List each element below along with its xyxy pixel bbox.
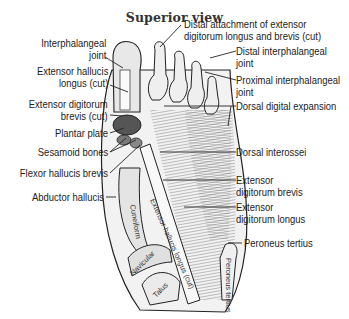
- hallux: [113, 42, 142, 148]
- label-extensor-digitorum-longus: Extensor digitorum longus: [236, 201, 305, 225]
- label-line: Extensor hallucis: [37, 65, 108, 77]
- label-extensor-hallucis-longus-cut: Extensor hallucis longus (cut): [37, 65, 108, 89]
- label-line: Extensor: [236, 201, 305, 213]
- label-line: Extensor: [236, 174, 303, 186]
- label-line: Sesamoid bones: [38, 146, 108, 158]
- label-line: brevis (cut): [29, 110, 108, 122]
- label-line: Distal interphalangeal: [236, 45, 327, 57]
- label-line: Proximal interphalangeal: [236, 74, 340, 86]
- label-distal-interphalangeal-joint: Distal interphalangeal joint: [236, 45, 327, 69]
- inline-label-peroneus-tertius: Peroneus tertius: [224, 258, 233, 313]
- label-peroneus-tertius: Peroneus tertius: [244, 237, 313, 249]
- label-flexor-hallucis-brevis: Flexor hallucis brevis: [20, 167, 108, 179]
- label-extensor-digitorum-brevis-cut: Extensor digitorum brevis (cut): [29, 98, 108, 122]
- label-abductor-hallucis: Abductor hallucis: [32, 191, 104, 203]
- label-proximal-interphalangeal-joint: Proximal interphalangeal joint: [236, 74, 340, 98]
- label-line: digitorum longus and brevis (cut): [184, 30, 321, 42]
- label-dorsal-interossei: Dorsal interossei: [236, 146, 306, 158]
- label-line: Dorsal digital expansion: [236, 100, 336, 112]
- label-line: Plantar plate: [55, 127, 108, 139]
- label-line: joint: [236, 57, 327, 69]
- leader-distal-interphalangeal-joint: [210, 51, 236, 58]
- label-line: Flexor hallucis brevis: [20, 167, 108, 179]
- label-line: longus (cut): [37, 77, 108, 89]
- label-line: joint: [41, 49, 106, 61]
- label-line: Distal attachment of extensor: [184, 18, 321, 30]
- label-interphalangeal-joint: Interphalangeal joint: [41, 37, 106, 61]
- leader-distal-attachment: [160, 25, 181, 47]
- label-line: digitorum brevis: [236, 186, 303, 198]
- label-line: Abductor hallucis: [32, 191, 104, 203]
- label-line: joint: [236, 86, 340, 98]
- label-line: digitorum longus: [236, 213, 305, 225]
- label-line: Extensor digitorum: [29, 98, 108, 110]
- label-line: Peroneus tertius: [244, 237, 313, 249]
- label-sesamoid-bones: Sesamoid bones: [38, 146, 108, 158]
- label-extensor-digitorum-brevis: Extensor digitorum brevis: [236, 174, 303, 198]
- label-plantar-plate: Plantar plate: [55, 127, 108, 139]
- label-line: Dorsal interossei: [236, 146, 306, 158]
- label-dorsal-digital-expansion: Dorsal digital expansion: [236, 100, 336, 112]
- label-line: Interphalangeal: [41, 37, 106, 49]
- label-distal-attachment: Distal attachment of extensor digitorum …: [184, 18, 321, 42]
